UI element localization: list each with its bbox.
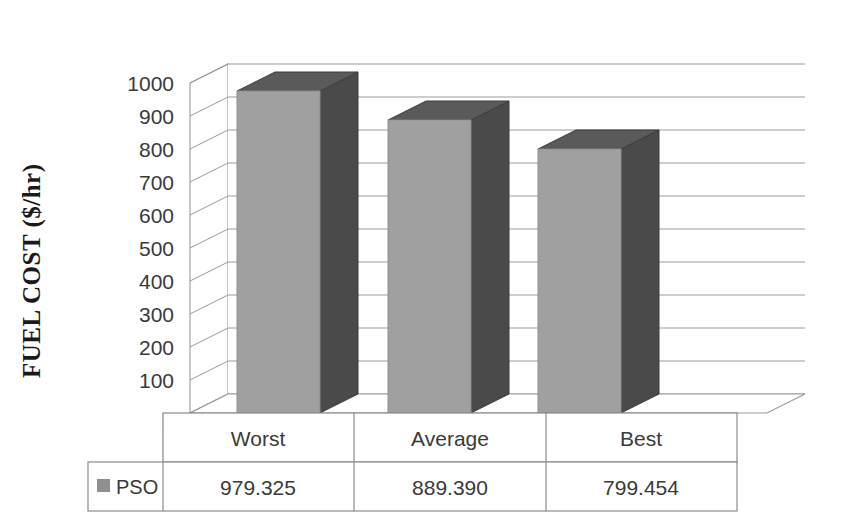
legend-series-label: PSO xyxy=(116,476,158,498)
y-axis-tick-labels: 1000 900 800 700 600 500 400 300 200 100… xyxy=(127,72,174,435)
table-value-cell: 889.390 xyxy=(412,476,488,499)
y-tick-label: 500 xyxy=(139,237,174,260)
y-tick-label: 700 xyxy=(139,171,174,194)
y-tick-label: 600 xyxy=(139,204,174,227)
bar-average[interactable] xyxy=(388,101,509,413)
table-header-cell: Average xyxy=(411,427,489,450)
bar-worst[interactable] xyxy=(237,72,358,413)
table-header-cell: Worst xyxy=(231,427,286,450)
y-tick-label: 100 xyxy=(139,369,174,392)
y-tick-label: 900 xyxy=(139,105,174,128)
bar-front-face xyxy=(388,120,471,413)
y-tick-label: 400 xyxy=(139,270,174,293)
y-tick-label: 1000 xyxy=(127,72,174,95)
y-tick-label: 300 xyxy=(139,303,174,326)
y-tick-label: 800 xyxy=(139,138,174,161)
bar-front-face xyxy=(538,149,621,413)
bar-side-face xyxy=(320,72,358,413)
plot-left-wall xyxy=(190,64,228,413)
y-axis-title: FUEL COST ($/hr) xyxy=(18,163,46,378)
table-value-cell: 799.454 xyxy=(603,476,679,499)
table-value-cell: 979.325 xyxy=(220,476,296,499)
chart-figure: FUEL COST ($/hr) 1000 900 800 700 600 50… xyxy=(0,0,841,530)
bar-front-face xyxy=(237,91,320,413)
table-header-cell: Best xyxy=(620,427,662,450)
bar-side-face xyxy=(621,130,659,413)
chart-canvas: FUEL COST ($/hr) 1000 900 800 700 600 50… xyxy=(0,0,841,530)
y-tick-label: 200 xyxy=(139,336,174,359)
legend-swatch-icon xyxy=(97,479,110,492)
bar-best[interactable] xyxy=(538,130,659,413)
bar-side-face xyxy=(471,101,509,413)
data-table: Worst Average Best PSO 979.325 889.390 7… xyxy=(88,413,737,511)
